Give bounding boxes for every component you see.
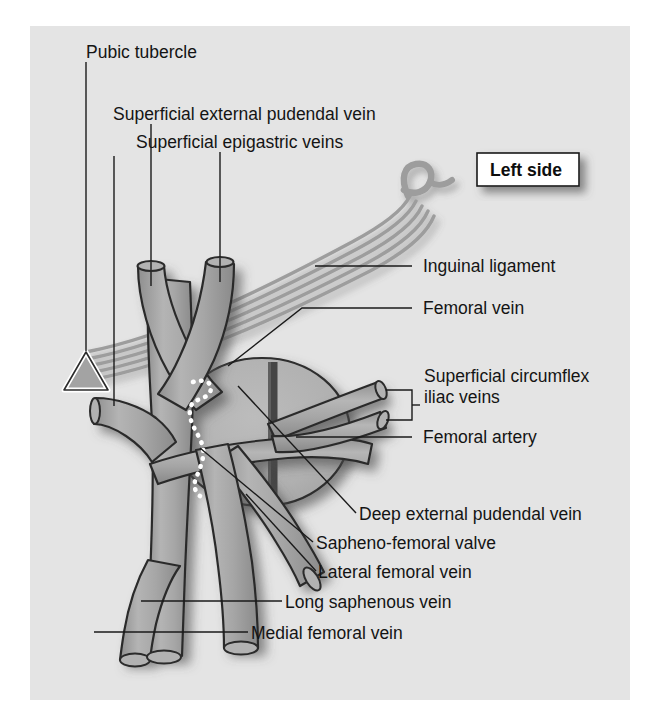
label-inguinal-ligament: Inguinal ligament — [423, 256, 555, 276]
label-superficial-circumflex-iliac-veins-line1: Superficial circumflex — [424, 366, 590, 386]
label-superficial-circumflex-iliac-veins-line2: iliac veins — [424, 387, 500, 407]
label-femoral-vein: Femoral vein — [423, 298, 524, 318]
label-femoral-artery: Femoral artery — [423, 427, 537, 447]
label-pubic-tubercle: Pubic tubercle — [86, 42, 197, 62]
label-lateral-femoral-vein: Lateral femoral vein — [318, 562, 472, 582]
label-medial-femoral-vein: Medial femoral vein — [251, 623, 403, 643]
anatomical-figure: Left side Pubic tubercle Superficial ext… — [0, 0, 670, 726]
open-end-pudendal-left — [90, 398, 100, 424]
open-end-medial-femoral — [120, 654, 150, 667]
label-long-saphenous-vein: Long saphenous vein — [285, 592, 451, 612]
label-superficial-epigastric-veins: Superficial epigastric veins — [136, 132, 343, 152]
left-side-badge: Left side — [477, 153, 579, 186]
left-side-badge-label: Left side — [490, 160, 562, 180]
label-sapheno-femoral-valve: Sapheno-femoral valve — [316, 533, 496, 553]
open-end-long-saphenous — [147, 651, 181, 664]
open-end-femoral-trunk — [224, 642, 258, 655]
label-superficial-external-pudendal-vein: Superficial external pudendal vein — [113, 104, 376, 124]
figure-canvas: Left side Pubic tubercle Superficial ext… — [0, 0, 670, 726]
label-deep-external-pudendal-vein: Deep external pudendal vein — [359, 504, 582, 524]
